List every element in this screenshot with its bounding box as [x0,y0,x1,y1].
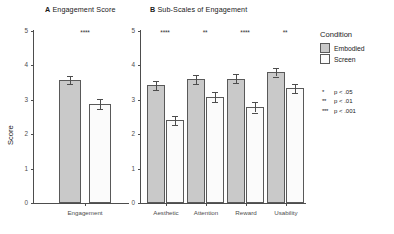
panel-b-ytick-label-0: 0 [125,199,135,206]
panel-a-ytick-5 [31,31,34,32]
panel-b-ytick-2 [138,134,141,135]
panel-b-title-text: Sub-Scales of Engagement [157,5,247,14]
panel-a-ytick-label-5: 5 [18,27,28,34]
bar-panel-a-engagement-embodied [59,80,81,203]
panel-a-ytick-label-2: 2 [18,130,28,137]
y-axis-label: Score [6,125,15,145]
panel-a-y-axis [33,30,34,204]
panel-b-ytick-1 [138,169,141,170]
errorbar-cap-top-panel-b-usability-embodied [273,68,279,69]
significance-panel-a-engagement: **** [60,29,110,36]
significance-key-stars-001: *** [322,107,334,116]
panel-a-title-text: Engagement Score [52,5,115,14]
panel-b-tag: B [150,5,155,14]
legend-title: Condition [320,30,365,39]
errorbar-panel-b-usability-screen [295,84,296,94]
significance-key-text-05: p < .05 [334,88,353,97]
panel-a-ytick-label-0: 0 [18,199,28,206]
significance-key-text-01: p < .01 [334,97,353,106]
errorbar-cap-top-panel-b-reward-embodied [233,74,239,75]
figure: A Engagement Score Score 5 4 3 2 1 0 ***… [0,0,394,234]
legend-label-screen: Screen [334,56,356,63]
panel-b-xtick-label-usability: Usability [260,209,312,216]
bar-panel-a-engagement-screen [89,104,111,203]
significance-key-row-01: ** p < .01 [322,97,356,106]
errorbar-panel-b-aesthetic-screen [175,116,176,126]
panel-b-ytick-label-1: 1 [125,165,135,172]
panel-a-ytick-2 [31,134,34,135]
bar-panel-b-aesthetic-screen [166,120,184,203]
errorbar-panel-b-reward-screen [255,102,256,112]
bar-panel-b-usability-screen [286,88,304,203]
panel-b-ytick-4 [138,65,141,66]
errorbar-cap-bottom-panel-b-usability-screen [292,93,298,94]
legend-item-screen[interactable]: Screen [320,54,365,64]
errorbar-cap-top-panel-a-engagement-embodied [67,76,73,77]
panel-b-ytick-0 [138,203,141,204]
panel-a-ytick-4 [31,65,34,66]
panel-a-ytick-3 [31,100,34,101]
significance-key-row-001: *** p < .001 [322,107,356,116]
panel-b-ytick-label-5: 5 [125,27,135,34]
errorbar-panel-b-aesthetic-embodied [156,81,157,90]
panel-b-xtick-3 [286,203,287,206]
errorbar-panel-b-usability-embodied [276,68,277,76]
panel-b-ytick-3 [138,100,141,101]
significance-key-row-05: * p < .05 [322,88,356,97]
significance-key-stars-05: * [322,88,334,97]
legend-swatch-embodied-icon [320,43,330,53]
panel-a-ytick-0 [31,203,34,204]
errorbar-panel-a-engagement-embodied [70,76,71,84]
errorbar-cap-top-panel-b-attention-screen [212,92,218,93]
panel-b-ytick-label-2: 2 [125,130,135,137]
errorbar-cap-bottom-panel-b-attention-screen [212,102,218,103]
panel-b-ytick-label-3: 3 [125,96,135,103]
errorbar-cap-top-panel-b-aesthetic-screen [172,116,178,117]
panel-b-y-axis [140,30,141,204]
errorbar-cap-bottom-panel-b-usability-embodied [273,77,279,78]
panel-a-ytick-label-3: 3 [18,96,28,103]
errorbar-cap-bottom-panel-b-aesthetic-embodied [153,90,159,91]
significance-key-text-001: p < .001 [334,107,356,116]
errorbar-panel-b-attention-embodied [196,75,197,84]
bar-panel-b-reward-embodied [227,79,245,204]
panel-a-xtick-0 [85,203,86,206]
panel-a-xtick-label-engagement: Engagement [55,209,115,216]
bar-panel-b-aesthetic-embodied [147,85,165,203]
legend-swatch-screen-icon [320,54,330,64]
errorbar-panel-a-engagement-screen [100,99,101,109]
errorbar-cap-top-panel-a-engagement-screen [97,99,103,100]
errorbar-panel-b-reward-embodied [236,74,237,82]
legend: Condition Embodied Screen [320,30,365,65]
legend-label-embodied: Embodied [334,45,365,52]
panel-b-xtick-0 [166,203,167,206]
bar-panel-b-attention-embodied [187,79,205,203]
legend-item-embodied[interactable]: Embodied [320,43,365,53]
significance-key: * p < .05 ** p < .01 *** p < .001 [322,88,356,116]
errorbar-cap-top-panel-b-usability-screen [292,84,298,85]
errorbar-cap-bottom-panel-b-aesthetic-screen [172,125,178,126]
errorbar-cap-bottom-panel-a-engagement-embodied [67,84,73,85]
panel-b-xtick-2 [246,203,247,206]
panel-a-ytick-1 [31,169,34,170]
errorbar-panel-b-attention-screen [215,92,216,102]
panel-a-x-axis [33,203,129,204]
panel-a-title: A Engagement Score [45,5,116,14]
significance-key-stars-01: ** [322,97,334,106]
bar-panel-b-reward-screen [246,107,264,203]
panel-b-xtick-1 [206,203,207,206]
errorbar-cap-bottom-panel-b-reward-embodied [233,83,239,84]
panel-b-title: B Sub-Scales of Engagement [150,5,247,14]
panel-a-ytick-label-4: 4 [18,61,28,68]
errorbar-cap-top-panel-b-attention-embodied [193,75,199,76]
bar-panel-b-attention-screen [206,97,224,203]
panel-a-tag: A [45,5,50,14]
panel-a-ytick-label-1: 1 [18,165,28,172]
errorbar-cap-top-panel-b-reward-screen [252,102,258,103]
panel-b-ytick-label-4: 4 [125,61,135,68]
errorbar-cap-bottom-panel-b-reward-screen [252,113,258,114]
errorbar-cap-top-panel-b-aesthetic-embodied [153,81,159,82]
errorbar-cap-bottom-panel-a-engagement-screen [97,109,103,110]
bar-panel-b-usability-embodied [267,72,285,203]
significance-panel-b-usability: ** [260,29,310,36]
